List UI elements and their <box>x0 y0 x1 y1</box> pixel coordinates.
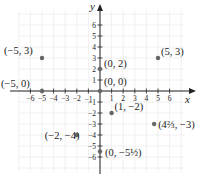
point-label: (−2, −4) <box>45 130 80 142</box>
x-tick-label: −4 <box>50 94 58 103</box>
data-point <box>40 89 44 93</box>
y-tick-label: 3 <box>92 54 96 63</box>
y-axis-label: y <box>89 0 95 12</box>
x-axis-label: x <box>184 93 190 105</box>
data-point <box>152 122 156 126</box>
point-label: (0, 2) <box>104 58 127 70</box>
point-label: (0, −5½) <box>105 147 142 159</box>
y-tick-label: −1 <box>88 98 96 107</box>
point-label: (5, 3) <box>161 46 184 58</box>
axes: x y <box>10 0 196 174</box>
y-tick-label: −2 <box>88 109 96 118</box>
x-tick-label: 5 <box>156 94 160 103</box>
point-label: (4⅔, −3) <box>158 119 195 131</box>
y-axis-arrow-icon <box>97 4 103 11</box>
y-tick-label: −4 <box>88 131 96 140</box>
x-tick-label: 1 <box>110 94 114 103</box>
x-tick-label: −5 <box>38 94 46 103</box>
x-tick-label: 4 <box>145 94 149 103</box>
data-point <box>156 56 160 60</box>
x-tick-label: −2 <box>73 94 81 103</box>
x-axis-arrow-icon <box>189 88 196 94</box>
x-tick-label: −6 <box>26 94 34 103</box>
y-tick-label: −5 <box>88 142 96 151</box>
x-tick-label: 6 <box>168 94 172 103</box>
point-label: (1, −2) <box>115 101 144 113</box>
point-label: (−5, 0) <box>1 78 30 90</box>
y-tick-label: 1 <box>92 76 96 85</box>
data-point <box>98 149 102 153</box>
y-tick-label: 4 <box>92 43 96 52</box>
data-point <box>109 111 113 115</box>
y-tick-label: −6 <box>88 153 96 162</box>
point-label: (0, 0) <box>104 76 127 88</box>
y-tick-label: 2 <box>92 65 96 74</box>
data-point <box>40 56 44 60</box>
data-point <box>98 67 102 71</box>
x-tick-label: −3 <box>61 94 69 103</box>
y-tick-label: 5 <box>92 32 96 41</box>
coordinate-plane: x y −6−5−4−3−2−1123456−6−5−4−3−2−1123456… <box>0 0 208 178</box>
y-tick-label: 6 <box>92 21 96 30</box>
y-tick-label: −3 <box>88 120 96 129</box>
point-label: (−5, 3) <box>4 45 33 57</box>
data-point <box>98 89 102 93</box>
